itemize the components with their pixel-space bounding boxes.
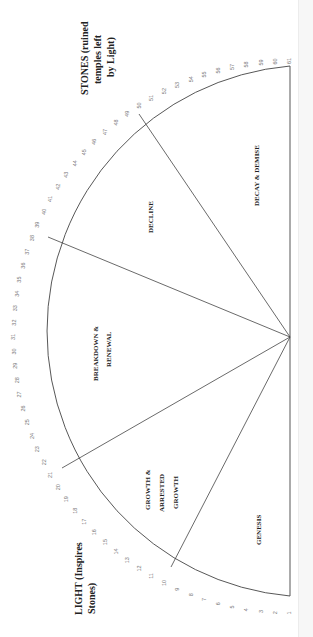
spoke-34 xyxy=(48,237,290,337)
tick-label: 14 xyxy=(113,548,119,554)
tick-label: 21 xyxy=(47,472,53,478)
tick-label: 12 xyxy=(136,565,142,571)
tick-label: 32 xyxy=(11,320,17,326)
tick-label: 55 xyxy=(201,71,207,77)
tick-label: 56 xyxy=(215,67,221,73)
tick-label: 16 xyxy=(91,529,97,535)
svg-text:Stones): Stones) xyxy=(86,583,98,614)
tick-label: 59 xyxy=(258,59,264,65)
life-cycle-diagram: 1234567891011121314151617181920212223242… xyxy=(0,0,313,637)
tick-label: 54 xyxy=(188,76,194,82)
tick-label: 51 xyxy=(148,95,154,101)
tick-label: 60 xyxy=(272,58,278,64)
tick-label: 38 xyxy=(29,235,35,241)
tick-label: 29 xyxy=(12,363,18,369)
tick-label: 4 xyxy=(243,608,249,611)
tick-label: 30 xyxy=(11,348,17,354)
title-light: LIGHT (Inspires Stones) xyxy=(73,542,98,615)
tick-label: 18 xyxy=(72,508,78,514)
svg-text:temples left: temples left xyxy=(92,34,103,84)
tick-label: 27 xyxy=(16,391,22,397)
svg-text:STONES (ruined: STONES (ruined xyxy=(79,21,91,95)
tick-label: 23 xyxy=(34,446,40,452)
tick-label: 47 xyxy=(102,129,108,135)
tick-label: 11 xyxy=(148,573,154,579)
tick-label: 2 xyxy=(272,611,278,614)
tick-label: 42 xyxy=(55,184,61,190)
tick-label: 5 xyxy=(229,605,235,608)
tick-label: 3 xyxy=(258,610,264,613)
svg-text:by Light): by Light) xyxy=(105,37,117,77)
tick-label: 13 xyxy=(124,557,130,563)
tick-label: 15 xyxy=(102,539,108,545)
tick-label: 9 xyxy=(174,588,180,591)
tick-label: 19 xyxy=(63,496,69,502)
tick-label: 37 xyxy=(24,249,30,255)
sector-label-decay: DECAY & DEMISE xyxy=(253,145,261,206)
tick-label: 50 xyxy=(136,102,142,108)
spoke-48 xyxy=(139,114,290,337)
tick-label: 20 xyxy=(55,484,61,490)
tick-label: 31 xyxy=(10,334,16,340)
svg-text:RENEWAL: RENEWAL xyxy=(105,331,113,367)
sector-label-breakdown: BREAKDOWN & RENEWAL xyxy=(92,326,113,381)
tick-label: 49 xyxy=(124,111,130,117)
tick-label: 6 xyxy=(215,602,221,605)
tick-label: 10 xyxy=(161,580,167,586)
tick-label: 33 xyxy=(12,305,18,311)
tick-label: 52 xyxy=(161,88,167,94)
tick-label: 53 xyxy=(174,82,180,88)
tick-label: 45 xyxy=(81,149,87,155)
tick-label: 28 xyxy=(14,377,20,383)
tick-label: 44 xyxy=(72,160,78,166)
tick-label: 43 xyxy=(63,172,69,178)
tick-label: 41 xyxy=(47,196,53,202)
tick-label: 17 xyxy=(81,519,87,525)
tick-label: 40 xyxy=(41,209,47,215)
sector-label-growth: GROWTH & ARRESTED GROWTH xyxy=(144,469,180,512)
svg-text:GROWTH: GROWTH xyxy=(172,475,180,509)
tick-label: 1 xyxy=(286,611,292,614)
scale-ticks: 1234567891011121314151617181920212223242… xyxy=(10,58,292,615)
svg-text:LIGHT (Inspires: LIGHT (Inspires xyxy=(73,542,85,615)
tick-label: 35 xyxy=(16,277,22,283)
tick-label: 58 xyxy=(243,61,249,67)
tick-label: 25 xyxy=(24,419,30,425)
svg-text:ARRESTED: ARRESTED xyxy=(158,474,166,512)
sector-label-genesis: GENESIS xyxy=(255,515,263,545)
svg-text:GROWTH &: GROWTH & xyxy=(144,469,152,510)
semicircle-chart: 1234567891011121314151617181920212223242… xyxy=(0,0,313,637)
page-edge xyxy=(298,0,313,637)
tick-label: 22 xyxy=(41,459,47,465)
tick-label: 48 xyxy=(113,119,119,125)
tick-label: 39 xyxy=(34,222,40,228)
tick-label: 61 xyxy=(286,58,292,64)
tick-label: 7 xyxy=(201,598,207,601)
title-stones: STONES (ruined temples left by Light) xyxy=(79,21,117,95)
tick-label: 34 xyxy=(14,291,20,297)
tick-label: 57 xyxy=(229,64,235,70)
tick-label: 26 xyxy=(20,405,26,411)
tick-label: 36 xyxy=(20,263,26,269)
svg-text:BREAKDOWN &: BREAKDOWN & xyxy=(92,326,100,381)
tick-label: 46 xyxy=(91,139,97,145)
tick-label: 8 xyxy=(188,593,194,596)
sector-label-decline: DECLINE xyxy=(147,201,155,233)
tick-label: 24 xyxy=(29,433,35,439)
